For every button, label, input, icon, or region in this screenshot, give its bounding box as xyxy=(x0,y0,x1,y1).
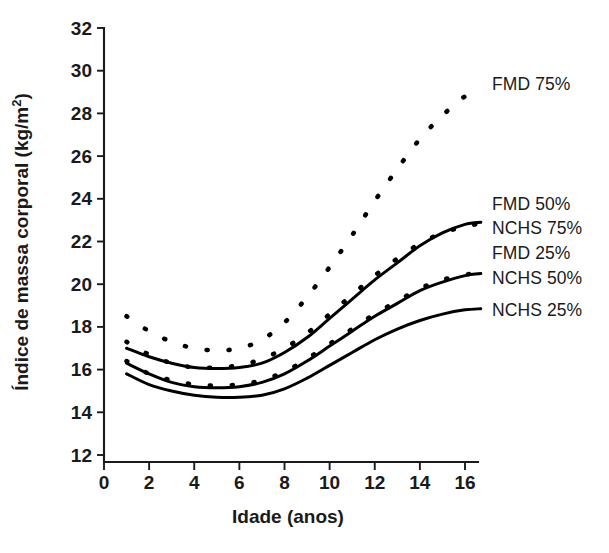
y-axis-tick-label: 12 xyxy=(71,445,92,466)
series-curve-fmd-25 xyxy=(127,274,481,386)
y-axis-tick-label: 28 xyxy=(71,103,92,124)
tick-labels: 12141618202224262830320246810121416 xyxy=(71,18,476,494)
series-curve-nchs-50 xyxy=(127,274,481,388)
series-label-nchs-75: NCHS 75% xyxy=(492,218,582,239)
x-axis-tick-label: 4 xyxy=(189,472,200,493)
series-label-fmd-25: FMD 25% xyxy=(492,243,571,264)
series-curve-nchs-75 xyxy=(127,222,481,368)
x-axis-tick-label: 2 xyxy=(144,472,155,493)
x-axis-tick-label: 8 xyxy=(279,472,290,493)
series-curve-fmd-50 xyxy=(127,223,481,368)
bmi-growth-chart-figure: 12141618202224262830320246810121416 Idad… xyxy=(0,0,609,553)
y-axis-tick-label: 22 xyxy=(71,231,92,252)
x-axis-tick-label: 12 xyxy=(364,472,385,493)
y-axis-tick-label: 30 xyxy=(71,60,92,81)
y-axis-title-close: ) xyxy=(11,93,32,99)
y-axis-title-base: Índice de massa corporal (kg/m xyxy=(11,107,32,391)
x-axis-tick-label: 10 xyxy=(319,472,340,493)
series-label-fmd-50: FMD 50% xyxy=(492,194,571,215)
y-axis-tick-label: 16 xyxy=(71,359,92,380)
x-axis-tick-label: 0 xyxy=(99,472,110,493)
axes xyxy=(97,28,478,470)
series-curve-fmd-75 xyxy=(127,90,481,350)
y-axis-tick-label: 18 xyxy=(71,316,92,337)
series-label-nchs-25: NCHS 25% xyxy=(492,300,582,321)
series-label-fmd-75: FMD 75% xyxy=(492,74,571,95)
x-axis-title: Idade (anos) xyxy=(232,506,344,527)
x-axis-tick-label: 16 xyxy=(454,472,475,493)
curve-series-group xyxy=(127,90,481,398)
y-axis-tick-label: 32 xyxy=(71,18,92,39)
y-axis-title-superscript: 2 xyxy=(9,100,24,107)
y-axis-tick-label: 20 xyxy=(71,274,92,295)
y-axis-tick-label: 26 xyxy=(71,146,92,167)
x-axis-line xyxy=(104,455,478,462)
series-label-nchs-50: NCHS 50% xyxy=(492,268,582,289)
x-axis-tick-label: 6 xyxy=(234,472,245,493)
x-axis-tick-label: 14 xyxy=(409,472,431,493)
y-axis-tick-label: 14 xyxy=(71,402,93,423)
y-axis-title: Índice de massa corporal (kg/m2) xyxy=(9,93,32,391)
y-axis-tick-label: 24 xyxy=(71,188,93,209)
